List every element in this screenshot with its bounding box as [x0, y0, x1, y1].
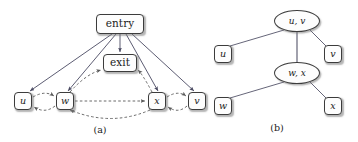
node-b-v-label: v	[330, 49, 335, 59]
node-wx[interactable]: w, x	[274, 62, 320, 84]
node-entry[interactable]: entry	[96, 14, 144, 34]
panel-a-control-flow-graph: entry exit u w x v (a)	[0, 0, 200, 142]
node-u[interactable]: u	[14, 92, 32, 110]
figure-container: entry exit u w x v (a)	[0, 0, 358, 142]
tree-edge-uv-to-v	[310, 30, 326, 46]
node-v[interactable]: v	[188, 92, 206, 110]
node-uv[interactable]: u, v	[274, 10, 320, 32]
node-wx-label: w, x	[288, 69, 305, 78]
edge-entry-to-v	[132, 34, 194, 91]
tree-edge-wx-to-w	[230, 82, 284, 98]
node-entry-label: entry	[106, 18, 135, 29]
edge-w-to-exit	[70, 70, 101, 92]
node-u-label: u	[20, 96, 26, 106]
node-v-label: v	[194, 96, 199, 106]
edge-entry-to-u	[30, 34, 112, 91]
node-exit[interactable]: exit	[103, 54, 137, 72]
edge-x-to-exit	[138, 70, 152, 92]
node-exit-label: exit	[110, 57, 130, 68]
node-b-x-label: x	[330, 101, 335, 111]
node-b-u-label: u	[220, 49, 226, 59]
node-b-v[interactable]: v	[324, 45, 342, 63]
tree-edge-wx-to-x	[310, 82, 326, 98]
edge-x-to-w	[70, 110, 150, 119]
node-b-x[interactable]: x	[324, 97, 342, 115]
caption-panel-a: (a)	[0, 124, 200, 135]
edge-v-to-x	[168, 106, 187, 110]
node-uv-label: u, v	[289, 17, 306, 26]
node-w-label: w	[61, 96, 69, 106]
edge-w-to-u	[34, 106, 55, 110]
edge-u-to-w	[33, 93, 54, 97]
node-w[interactable]: w	[56, 92, 74, 110]
node-b-w-label: w	[219, 101, 227, 111]
panel-b-loop-tree: u, v u v w, x w x (b)	[196, 0, 358, 142]
node-x[interactable]: x	[148, 92, 166, 110]
caption-panel-b: (b)	[196, 122, 358, 133]
node-x-label: x	[154, 96, 159, 106]
edge-x-to-v	[167, 93, 186, 97]
node-b-w[interactable]: w	[214, 97, 232, 115]
tree-edge-uv-to-u	[230, 30, 284, 46]
node-b-u[interactable]: u	[214, 45, 232, 63]
